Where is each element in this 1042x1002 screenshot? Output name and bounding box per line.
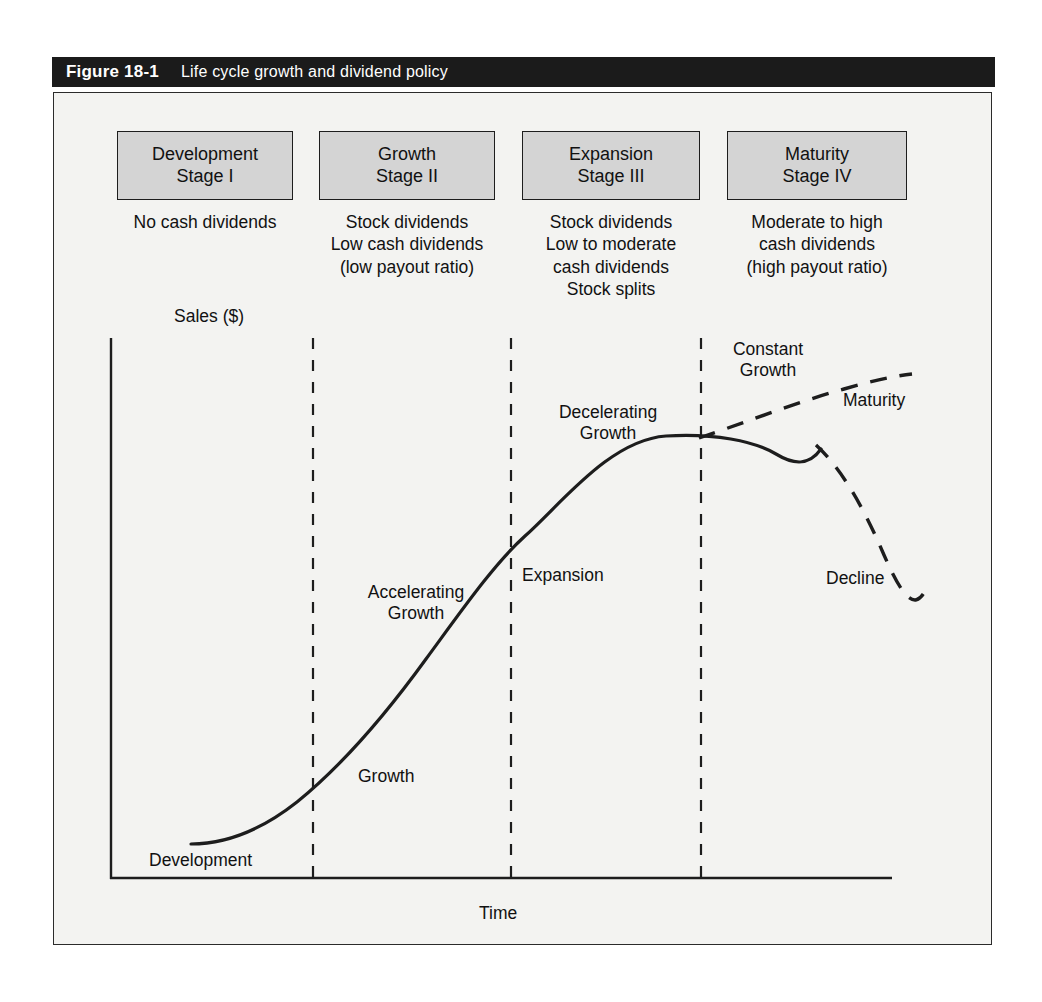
stage-policy-development-line-1: No cash dividends <box>117 211 293 233</box>
stage-policy-expansion: Stock dividends Low to moderate cash div… <box>522 211 700 301</box>
figure-title-bar: Figure 18-1 Life cycle growth and divide… <box>52 57 995 87</box>
stage-box-expansion-name: Expansion <box>569 144 653 166</box>
curve-label-constant-growth: Constant Growth <box>709 339 827 382</box>
stage-box-growth-number: Stage II <box>376 166 438 188</box>
curve-label-decline: Decline <box>826 568 884 589</box>
stage-box-development-name: Development <box>152 144 258 166</box>
curve-label-maturity: Maturity <box>843 390 905 411</box>
stage-policy-maturity-line-1: Moderate to high <box>727 211 907 233</box>
figure-18-1: Figure 18-1 Life cycle growth and divide… <box>0 0 1042 1002</box>
stage-policy-growth: Stock dividends Low cash dividends (low … <box>319 211 495 278</box>
figure-number: Figure 18-1 <box>66 62 159 82</box>
stage-policy-growth-line-3: (low payout ratio) <box>319 256 495 278</box>
x-axis-label: Time <box>479 903 517 924</box>
stage-policy-maturity: Moderate to high cash dividends (high pa… <box>727 211 907 278</box>
curve-label-constant-growth-line-1: Constant <box>733 339 803 359</box>
stage-policy-development: No cash dividends <box>117 211 293 233</box>
stage-box-development-number: Stage I <box>176 166 233 188</box>
curve-label-decelerating-growth-line-2: Growth <box>580 423 636 443</box>
curve-label-growth: Growth <box>358 766 414 787</box>
curve-label-accelerating-growth-line-1: Accelerating <box>368 582 464 602</box>
stage-box-expansion[interactable]: Expansion Stage III <box>522 131 700 200</box>
stage-policy-expansion-line-2: Low to moderate <box>522 233 700 255</box>
curve-label-accelerating-growth-line-2: Growth <box>388 603 444 623</box>
curve-label-development: Development <box>149 850 252 871</box>
stage-box-maturity[interactable]: Maturity Stage IV <box>727 131 907 200</box>
stage-box-development[interactable]: Development Stage I <box>117 131 293 200</box>
stage-policy-maturity-line-3: (high payout ratio) <box>727 256 907 278</box>
stage-box-expansion-number: Stage III <box>577 166 644 188</box>
stage-policy-expansion-line-3: cash dividends <box>522 256 700 278</box>
curve-label-decelerating-growth: Decelerating Growth <box>537 402 679 445</box>
stage-policy-growth-line-2: Low cash dividends <box>319 233 495 255</box>
sales-life-cycle-curve <box>191 435 821 844</box>
figure-frame: Development Stage I No cash dividends Gr… <box>53 92 992 945</box>
stage-policy-maturity-line-2: cash dividends <box>727 233 907 255</box>
figure-title: Life cycle growth and dividend policy <box>181 63 448 81</box>
curve-label-constant-growth-line-2: Growth <box>740 360 796 380</box>
stage-box-growth-name: Growth <box>378 144 436 166</box>
y-axis-label: Sales ($) <box>174 306 244 327</box>
stage-box-maturity-number: Stage IV <box>782 166 851 188</box>
curve-label-decelerating-growth-line-1: Decelerating <box>559 402 657 422</box>
stage-policy-expansion-line-1: Stock dividends <box>522 211 700 233</box>
stage-policy-growth-line-1: Stock dividends <box>319 211 495 233</box>
curve-label-accelerating-growth: Accelerating Growth <box>346 582 486 625</box>
curve-label-expansion: Expansion <box>522 565 604 586</box>
stage-box-maturity-name: Maturity <box>785 144 849 166</box>
stage-box-growth[interactable]: Growth Stage II <box>319 131 495 200</box>
stage-policy-expansion-line-4: Stock splits <box>522 278 700 300</box>
